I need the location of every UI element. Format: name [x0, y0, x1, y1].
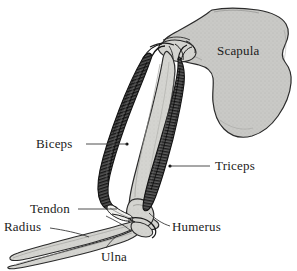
label-scapula: Scapula [217, 44, 260, 57]
label-tendon: Tendon [30, 202, 70, 215]
anatomy-figure: Scapula Biceps Triceps Tendon Radius Hum… [0, 0, 297, 271]
label-biceps: Biceps [36, 137, 73, 150]
label-radius: Radius [4, 220, 41, 233]
label-humerus: Humerus [172, 220, 221, 233]
label-ulna: Ulna [101, 250, 127, 263]
label-triceps: Triceps [215, 159, 255, 172]
